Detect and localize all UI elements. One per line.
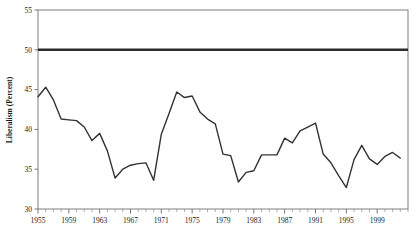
y-tick-label: 45 [25, 85, 33, 94]
x-tick-label: 1991 [308, 216, 323, 225]
y-tick-label: 30 [25, 205, 33, 214]
y-tick-label: 55 [25, 6, 33, 15]
x-tick-label: 1979 [216, 216, 231, 225]
x-tick-label: 1999 [370, 216, 385, 225]
x-tick-label: 1955 [31, 216, 46, 225]
y-axis: 303540455055 [25, 6, 39, 214]
x-tick-label: 1983 [246, 216, 261, 225]
chart-container: 303540455055 195519591963196719711975197… [0, 0, 417, 239]
x-tick-label: 1987 [277, 216, 292, 225]
y-tick-label: 50 [25, 46, 33, 55]
x-tick-label: 1995 [339, 216, 354, 225]
y-tick-label: 40 [25, 125, 33, 134]
line-chart: 303540455055 195519591963196719711975197… [0, 0, 417, 239]
x-tick-label: 1971 [154, 216, 169, 225]
y-tick-label: 35 [25, 165, 33, 174]
x-tick-label: 1959 [61, 216, 76, 225]
x-tick-label: 1975 [185, 216, 200, 225]
x-axis: 1955195919631967197119751979198319871991… [31, 209, 409, 225]
y-axis-title: Liberalism (Percent) [5, 76, 14, 143]
x-tick-label: 1963 [92, 216, 107, 225]
data-series-group [38, 87, 400, 187]
series-line-liberalism [38, 87, 400, 187]
x-tick-label: 1967 [123, 216, 138, 225]
plot-frame [38, 10, 408, 209]
